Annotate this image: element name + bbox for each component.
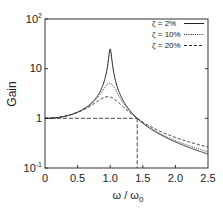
x-tick-labels: 0 0.5 1.0 1.5 2.0 2.5: [42, 172, 216, 184]
legend-label-10pct: ζ = 10%: [152, 30, 181, 39]
curve-dotted: [45, 83, 208, 152]
legend: ζ = 2% ζ = 10% ζ = 20%: [152, 19, 204, 50]
y-tick-0-1: 10-1: [24, 161, 43, 174]
x-tick-1-0: 1.0: [103, 172, 118, 184]
y-axis-label: Gain: [5, 81, 19, 106]
legend-label-2pct: ζ = 2%: [152, 19, 176, 28]
x-tick-0-5: 0.5: [70, 172, 85, 184]
curve-solid: [45, 49, 208, 154]
y-tick-100: 102: [26, 12, 42, 25]
curve-dashed: [45, 97, 208, 147]
x-tick-0: 0: [42, 172, 48, 184]
x-tick-1-5: 1.5: [135, 172, 150, 184]
y-tick-1: 1: [36, 112, 42, 124]
x-tick-2-5: 2.5: [200, 172, 215, 184]
legend-label-20pct: ζ = 20%: [152, 41, 181, 50]
gain-chart: 102 10 1 10-1 0 0.5 1.0 1.5 2.0 2.5 ω / …: [0, 0, 223, 208]
y-tick-10: 10: [30, 62, 42, 74]
x-tick-2-0: 2.0: [168, 172, 183, 184]
curves: [45, 49, 208, 154]
x-axis-label: ω / ω0: [113, 189, 144, 204]
